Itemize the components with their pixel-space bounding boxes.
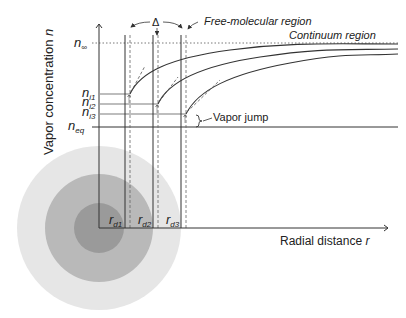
vapor-jump-label: Vapor jump bbox=[213, 111, 268, 123]
free-molecular-arrow bbox=[188, 22, 198, 29]
delta-label: Δ bbox=[152, 16, 160, 28]
n-inf-label: n∞ bbox=[74, 35, 87, 52]
tangent-3 bbox=[187, 80, 220, 112]
vapor-concentration-diagram: Vapor jump Δ Free-molecular region Conti… bbox=[0, 0, 406, 318]
continuum-label: Continuum region bbox=[289, 29, 376, 41]
y-axis-label: Vapor concentration n bbox=[41, 29, 56, 155]
free-molecular-label: Free-molecular region bbox=[204, 15, 312, 27]
delta-arrow-1 bbox=[131, 22, 150, 27]
n-eq-label: neq bbox=[68, 118, 85, 135]
vapor-jump-pointer bbox=[203, 118, 212, 121]
delta-arrow-3 bbox=[163, 22, 182, 28]
curve-2 bbox=[158, 49, 398, 104]
x-axis-label: Radial distance r bbox=[280, 234, 370, 248]
curve-3 bbox=[186, 54, 398, 114]
vapor-jump-brace bbox=[196, 115, 202, 127]
